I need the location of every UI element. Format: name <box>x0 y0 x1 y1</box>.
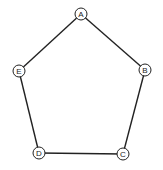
edge-e-a <box>19 14 81 71</box>
edge-c-d <box>39 153 123 154</box>
node-e: E <box>13 65 25 77</box>
node-d: D <box>33 147 45 159</box>
edges <box>19 14 145 154</box>
pentagon-graph-diagram: ABCDE <box>0 0 163 170</box>
edge-b-c <box>123 70 145 154</box>
node-label: E <box>16 67 21 76</box>
edge-a-b <box>81 14 145 70</box>
node-a: A <box>75 8 87 20</box>
node-label: C <box>120 150 126 159</box>
graph-svg: ABCDE <box>0 0 163 170</box>
edge-d-e <box>19 71 39 153</box>
node-label: A <box>78 10 84 19</box>
node-label: B <box>142 66 147 75</box>
node-label: D <box>36 149 42 158</box>
node-c: C <box>117 148 129 160</box>
nodes: ABCDE <box>13 8 151 160</box>
node-b: B <box>139 64 151 76</box>
